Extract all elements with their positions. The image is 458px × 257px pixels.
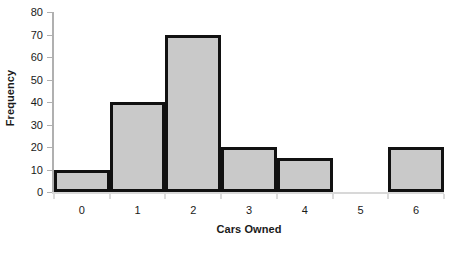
y-axis-tick-label: 80	[31, 7, 43, 18]
x-axis-tick-label: 2	[165, 199, 221, 221]
bar-slot	[54, 12, 110, 192]
y-axis-tick-labels: 01020304050607080	[20, 12, 46, 192]
y-axis-tick-mark	[47, 192, 52, 193]
y-axis-title: Frequency	[0, 0, 20, 196]
bar[interactable]	[165, 35, 221, 193]
x-axis-tick-label: 4	[277, 199, 333, 221]
bar[interactable]	[54, 170, 110, 193]
x-axis-tick-label: 3	[221, 199, 277, 221]
x-axis-tick-label: 5	[333, 199, 389, 221]
y-axis-tick-label: 70	[31, 29, 43, 40]
bar[interactable]	[221, 147, 277, 192]
y-axis-tick-mark	[47, 170, 52, 171]
bar-slot	[333, 12, 389, 192]
bar[interactable]	[388, 147, 444, 192]
bar-slot	[221, 12, 277, 192]
y-axis-tick-label: 60	[31, 52, 43, 63]
y-axis-tick-mark	[47, 35, 52, 36]
bar[interactable]	[277, 158, 333, 192]
x-axis-title: Cars Owned	[54, 223, 444, 235]
x-axis-tick-labels: 0123456	[54, 199, 444, 221]
bar-slot	[110, 12, 166, 192]
bar-slot	[277, 12, 333, 192]
y-axis-tick-label: 40	[31, 97, 43, 108]
y-axis-tick-mark	[47, 12, 52, 13]
histogram-chart: Frequency 01020304050607080 0123456 Cars…	[0, 0, 458, 257]
y-axis-tick-mark	[47, 125, 52, 126]
bar-slot	[388, 12, 444, 192]
y-axis-tick-mark	[47, 80, 52, 81]
y-axis-tick-label: 20	[31, 142, 43, 153]
y-axis-tick-mark	[47, 147, 52, 148]
bar-slot	[165, 12, 221, 192]
x-axis-tick-label: 1	[110, 199, 166, 221]
y-axis-tick-mark	[47, 57, 52, 58]
plot-area	[54, 12, 444, 192]
y-axis-tick-label: 50	[31, 74, 43, 85]
bar[interactable]	[110, 102, 166, 192]
y-axis-title-label: Frequency	[4, 70, 16, 127]
x-axis-tick-label: 0	[54, 199, 110, 221]
y-axis-tick-label: 10	[31, 164, 43, 175]
y-axis-tick-label: 30	[31, 119, 43, 130]
y-axis-tick-mark	[47, 102, 52, 103]
y-axis-tick-label: 0	[37, 187, 43, 198]
x-axis-tick-label: 6	[388, 199, 444, 221]
bars-container	[54, 12, 444, 192]
